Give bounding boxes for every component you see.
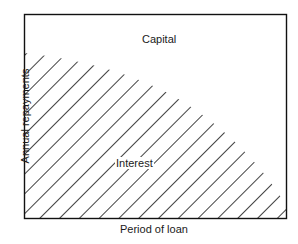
interest-hatched-region (24, 40, 288, 220)
y-axis-label: Annual repayments (19, 61, 31, 171)
capital-region-label: Capital (142, 33, 176, 45)
x-axis-label: Period of loan (120, 223, 188, 235)
interest-region-label: Interest (115, 157, 154, 169)
